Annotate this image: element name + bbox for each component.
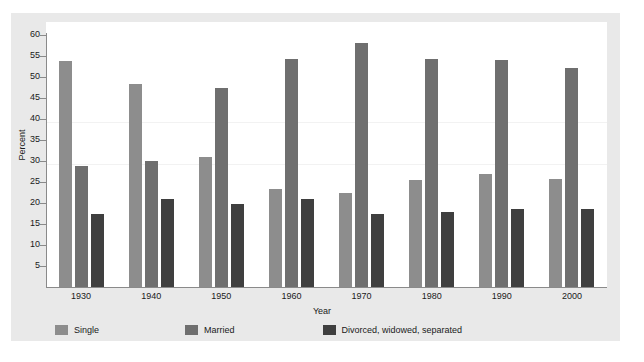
bar-1980-2 [425,59,438,287]
bar-1980-3 [441,212,454,287]
bar-1970-1 [339,193,352,287]
x-tick-label-1950: 1950 [191,291,251,301]
bar-1990-1 [479,174,492,287]
bar-1930-3 [91,214,104,287]
bar-1940-3 [161,199,174,287]
chart-figure: 51015202530354045505560 Percent 19301940… [0,0,644,362]
y-tick-label-wrap: 60 [0,30,40,39]
chart-legend: SingleMarriedDivorced, widowed, separate… [55,325,462,335]
x-tick-label-1980: 1980 [402,291,462,301]
y-tick-mark [40,182,46,183]
bar-1960-1 [269,189,282,287]
legend-label: Divorced, widowed, separated [342,325,463,335]
y-tick-label-wrap: 25 [0,177,40,186]
legend-label: Married [204,325,235,335]
y-tick-mark [40,266,46,267]
bar-1950-3 [231,204,244,287]
legend-item-2[interactable]: Married [185,325,235,335]
y-tick-mark [40,245,46,246]
y-tick-mark [40,224,46,225]
y-tick-mark [40,35,46,36]
bar-1950-1 [199,157,212,287]
y-tick-label: 5 [14,261,40,270]
y-tick-label: 15 [14,219,40,228]
legend-swatch-icon [55,325,68,335]
bar-1930-1 [59,61,72,287]
y-tick-label-wrap: 50 [0,72,40,81]
bar-2000-1 [549,179,562,287]
y-tick-mark [40,161,46,162]
bar-1930-2 [75,166,88,287]
legend-label: Single [74,325,99,335]
legend-swatch-icon [185,325,198,335]
bar-2000-2 [565,68,578,287]
x-axis-line [46,287,607,288]
y-tick-label: 20 [14,198,40,207]
y-tick-label-wrap: 45 [0,93,40,102]
x-tick-label-1940: 1940 [121,291,181,301]
bar-1960-3 [301,199,314,287]
bar-1990-3 [511,209,524,287]
y-tick-label: 25 [14,177,40,186]
y-axis-line [46,33,47,288]
x-tick-label-1930: 1930 [51,291,111,301]
x-tick-label-1990: 1990 [472,291,532,301]
y-tick-label: 10 [14,240,40,249]
bar-1940-2 [145,161,158,287]
y-tick-mark [40,203,46,204]
y-tick-label: 50 [14,72,40,81]
y-tick-label: 60 [14,30,40,39]
y-tick-label: 55 [14,51,40,60]
x-tick-label-1960: 1960 [261,291,321,301]
y-tick-mark [40,119,46,120]
bar-2000-3 [581,209,594,287]
bar-1970-3 [371,214,384,287]
bar-1950-2 [215,88,228,287]
bar-1980-1 [409,180,422,287]
y-tick-label-wrap: 10 [0,240,40,249]
legend-swatch-icon [323,325,336,335]
bar-1940-1 [129,84,142,287]
y-tick-label-wrap: 15 [0,219,40,228]
y-tick-label-wrap: 20 [0,198,40,207]
y-tick-mark [40,56,46,57]
bar-1970-2 [355,43,368,287]
bar-1960-2 [285,59,298,287]
x-tick-label-1970: 1970 [332,291,392,301]
x-axis-title: Year [0,306,644,316]
y-tick-label-wrap: 5 [0,261,40,270]
y-tick-label-wrap: 55 [0,51,40,60]
y-tick-label: 45 [14,93,40,102]
plot-area [46,22,607,288]
legend-item-1[interactable]: Single [55,325,99,335]
x-tick-label-2000: 2000 [542,291,602,301]
y-tick-mark [40,98,46,99]
y-tick-mark [40,77,46,78]
y-axis-title: Percent [17,115,27,175]
y-tick-mark [40,140,46,141]
bar-1990-2 [495,60,508,287]
legend-item-3[interactable]: Divorced, widowed, separated [323,325,463,335]
